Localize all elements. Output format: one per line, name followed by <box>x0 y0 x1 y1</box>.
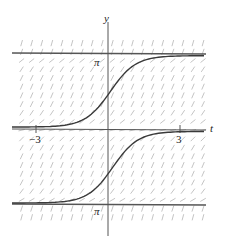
pi-upper-label: π <box>94 56 100 68</box>
t-axis-label: t <box>210 122 213 134</box>
equilibrium-line-pi <box>12 53 206 54</box>
equilibrium-line-neg-pi <box>12 204 206 205</box>
slope-field-chart <box>0 0 225 242</box>
t-axis <box>12 129 206 130</box>
y-axis-label: y <box>104 12 109 24</box>
tick-label-3: 3 <box>176 133 182 145</box>
pi-lower-label: π <box>94 205 100 217</box>
tick-label-neg3: −3 <box>29 133 41 145</box>
